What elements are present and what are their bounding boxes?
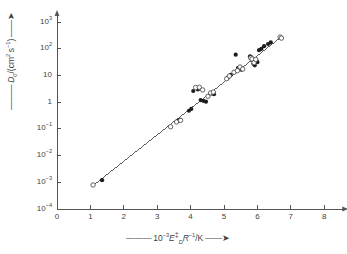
y-axis-unit-mid: s xyxy=(6,48,16,54)
y-tick-label: 10−2 xyxy=(26,151,52,159)
y-axis-variable: D xyxy=(6,77,16,83)
data-point-filled xyxy=(189,107,193,111)
y-tick-label: 10−1 xyxy=(26,124,52,132)
y-axis-unit-exponent-2: −1 xyxy=(5,42,11,48)
y-axis-variable-subscript: 0 xyxy=(12,74,18,77)
x-axis-arrowhead-icon xyxy=(342,207,347,212)
x-tick-label: 6 xyxy=(250,213,264,221)
y-tick-label: 10−3 xyxy=(26,178,52,186)
x-tick-label: 7 xyxy=(284,213,298,221)
data-point-filled xyxy=(262,44,266,48)
x-axis-prefix: 10 xyxy=(153,233,162,243)
x-axis-title: ——— 10−3E‡DR−1/K ——➤ xyxy=(126,233,230,243)
y-axis-unit-open: /(cm xyxy=(6,57,16,74)
y-tick-label: 102 xyxy=(26,44,52,52)
axis-ticks xyxy=(57,22,324,209)
x-axis-arrow-right: ——➤ xyxy=(203,233,230,243)
x-tick-label: 3 xyxy=(150,213,164,221)
data-point-open xyxy=(211,90,215,94)
data-point-open xyxy=(241,67,245,71)
x-tick-label: 5 xyxy=(217,213,231,221)
data-point-open xyxy=(178,118,182,122)
figure-container: 012345678 10310210110−110−210−310−4 ——— … xyxy=(0,0,347,254)
y-tick-label: 103 xyxy=(26,18,52,26)
x-tick-label: 2 xyxy=(117,213,131,221)
y-tick-label: 10 xyxy=(26,71,52,79)
data-point-filled xyxy=(204,100,208,104)
y-axis-title: ——— D0/(cm2 s−1) ——➤ xyxy=(6,12,16,110)
data-point-open xyxy=(91,183,95,187)
x-tick-label: 4 xyxy=(184,213,198,221)
x-tick-label: 0 xyxy=(50,213,64,221)
y-axis-line-left: ——— xyxy=(6,83,16,110)
data-point-open xyxy=(227,74,231,78)
x-tick-label: 1 xyxy=(83,213,97,221)
data-point-filled xyxy=(100,178,104,182)
data-point-filled xyxy=(269,40,273,44)
data-point-open xyxy=(254,57,258,61)
x-tick-label: 8 xyxy=(317,213,331,221)
y-tick-label: 1 xyxy=(26,98,52,106)
y-axis-unit-close: ) xyxy=(6,39,16,42)
x-axis-doubledagger-icon: ‡ xyxy=(175,231,179,238)
y-axis-arrowhead-icon xyxy=(55,10,60,16)
y-axis-arrow-up: ——➤ xyxy=(6,12,16,39)
y-axis-unit-exponent-1: 2 xyxy=(5,54,11,57)
data-point-filled xyxy=(234,53,238,57)
data-point-open xyxy=(168,125,172,129)
y-tick-label: 10−4 xyxy=(26,205,52,213)
data-point-open xyxy=(279,36,283,40)
x-axis-arrow-left: ——— xyxy=(126,233,153,243)
data-point-open xyxy=(200,88,204,92)
